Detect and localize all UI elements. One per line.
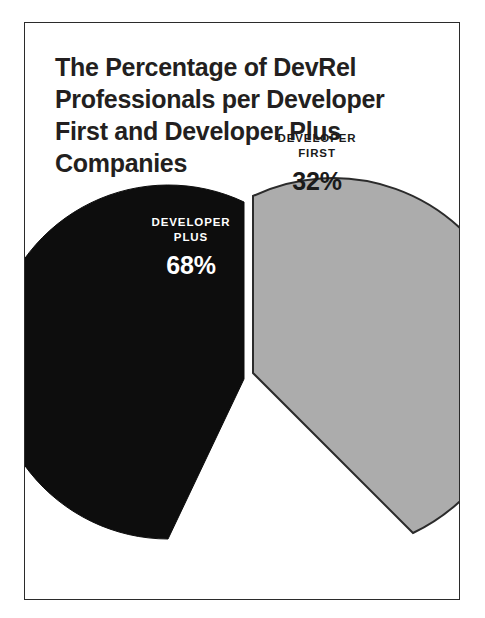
slice-value-developer-plus: 68% <box>121 252 261 280</box>
slice-label-developer-first: DEVELOPER FIRST 32% <box>247 131 387 196</box>
slice-name-developer-first: DEVELOPER FIRST <box>247 131 387 161</box>
pie-slice-developer-first[interactable] <box>253 178 460 533</box>
infographic-card: The Percentage of DevRel Professionals p… <box>24 22 460 600</box>
pie-chart-svg <box>25 23 460 600</box>
slice-name-developer-plus: DEVELOPER PLUS <box>121 215 261 245</box>
slice-value-developer-first: 32% <box>247 168 387 196</box>
pie-chart: DEVELOPER FIRST 32% DEVELOPER PLUS 68% <box>25 23 460 600</box>
slice-label-developer-plus: DEVELOPER PLUS 68% <box>121 215 261 280</box>
